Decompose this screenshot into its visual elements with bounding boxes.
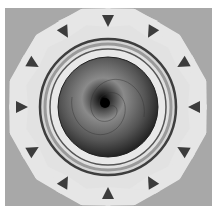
petal-ring bbox=[0, 0, 217, 212]
mandala-graphic bbox=[0, 0, 217, 212]
